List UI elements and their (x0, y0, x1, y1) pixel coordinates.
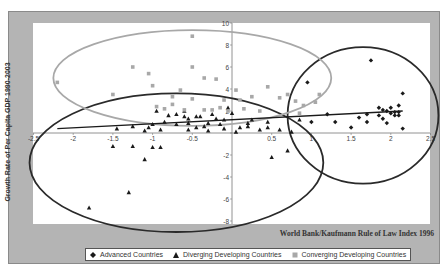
point-converging (218, 106, 222, 110)
point-diverging (150, 145, 154, 149)
y-tick-label: -2 (223, 152, 229, 159)
point-converging (191, 65, 195, 69)
x-tick-label: -1 (150, 135, 156, 142)
y-tick-label: 10 (222, 20, 230, 27)
point-converging (111, 93, 115, 97)
point-converging (266, 85, 270, 89)
triangle-icon (173, 252, 179, 258)
point-converging (155, 105, 159, 109)
point-diverging (127, 190, 131, 194)
point-advanced (309, 120, 313, 124)
axes: -2.5-2-1.5-1-0.50.511.522.5108642-2-4-6-… (28, 20, 435, 225)
point-advanced (365, 120, 369, 124)
cluster-ellipses (30, 30, 439, 232)
point-diverging (182, 114, 186, 118)
y-tick-label: -8 (223, 218, 229, 225)
point-advanced (389, 106, 393, 110)
point-advanced (393, 113, 397, 117)
x-tick-label: -0.5 (187, 135, 199, 142)
point-advanced (377, 113, 381, 117)
point-diverging (158, 127, 162, 131)
x-tick-label: -1.5 (107, 135, 119, 142)
y-tick-label: 6 (225, 64, 229, 71)
x-tick-label: -2 (70, 135, 76, 142)
point-converging (179, 88, 183, 92)
legend-label: Converging Developing Countries (302, 251, 407, 258)
point-diverging (142, 157, 146, 161)
point-diverging (154, 109, 158, 113)
diamond-icon (90, 252, 96, 258)
point-converging (147, 72, 151, 76)
point-diverging (266, 120, 270, 124)
point-converging (171, 95, 175, 99)
point-converging (163, 107, 167, 111)
legend: Advanced Countries Diverging Developing … (85, 248, 411, 261)
point-diverging (87, 206, 91, 210)
point-converging (210, 108, 214, 112)
point-diverging (174, 112, 178, 116)
point-converging (278, 96, 282, 100)
point-converging (56, 81, 60, 85)
point-converging (286, 93, 290, 97)
point-advanced (333, 120, 337, 124)
point-diverging (297, 118, 301, 122)
point-converging (294, 99, 298, 103)
point-diverging (206, 129, 210, 133)
point-converging (191, 34, 195, 38)
point-advanced (397, 103, 401, 107)
point-diverging (285, 148, 289, 152)
point-converging (258, 109, 262, 113)
y-tick-label: -6 (223, 196, 229, 203)
y-axis-label: Growth Rate of Per Capita GDP 1990-2003 (4, 62, 11, 201)
point-advanced (401, 126, 405, 130)
point-advanced (381, 117, 385, 121)
point-converging (302, 104, 306, 108)
point-diverging (210, 112, 214, 116)
y-tick-label: 4 (225, 86, 229, 93)
point-diverging (238, 125, 242, 129)
point-converging (214, 77, 218, 81)
point-converging (202, 76, 206, 80)
point-diverging (186, 127, 190, 131)
point-diverging (222, 126, 226, 130)
legend-label: Advanced Countries (100, 251, 163, 258)
point-diverging (277, 127, 281, 131)
point-diverging (186, 116, 190, 120)
x-tick-label: 1.5 (347, 135, 356, 142)
point-advanced (377, 106, 381, 110)
point-converging (226, 109, 230, 113)
point-advanced (357, 115, 361, 119)
point-diverging (115, 126, 119, 130)
point-diverging (234, 130, 238, 134)
legend-item-converging: Converging Developing Countries (292, 251, 407, 258)
point-diverging (270, 155, 274, 159)
point-diverging (194, 114, 198, 118)
point-converging (298, 111, 302, 115)
point-diverging (111, 144, 115, 148)
point-diverging (258, 127, 262, 131)
point-diverging (131, 144, 135, 148)
point-diverging (166, 113, 170, 117)
x-tick-label: 2 (389, 135, 393, 142)
legend-item-advanced: Advanced Countries (90, 251, 163, 258)
ellipse-converging (53, 30, 331, 126)
point-converging (234, 88, 238, 92)
point-diverging (230, 111, 234, 115)
x-axis-label: World Bank/Kaufmann Rule of Law Index 19… (280, 229, 434, 238)
legend-label: Diverging Developing Countries (183, 251, 281, 258)
legend-item-diverging: Diverging Developing Countries (173, 251, 281, 258)
point-advanced (305, 80, 309, 84)
point-converging (202, 108, 206, 112)
point-converging (318, 93, 322, 97)
point-converging (171, 103, 175, 107)
point-advanced (349, 125, 353, 129)
point-diverging (146, 125, 150, 129)
point-advanced (369, 58, 373, 62)
point-advanced (385, 121, 389, 125)
point-converging (151, 84, 155, 88)
y-tick-label: 8 (225, 42, 229, 49)
point-diverging (142, 129, 146, 133)
point-converging (222, 98, 226, 102)
point-advanced (401, 91, 405, 95)
point-converging (183, 108, 187, 112)
